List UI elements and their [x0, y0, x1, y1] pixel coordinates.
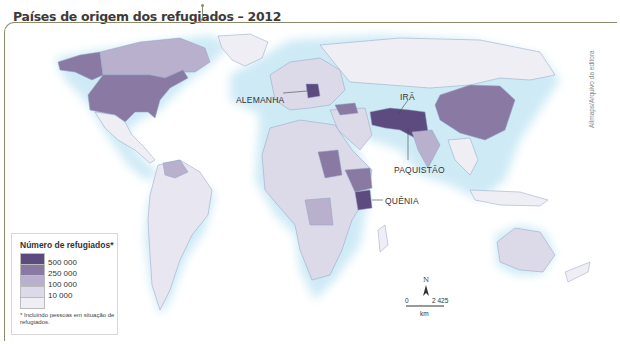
legend-value: 500 000: [48, 258, 77, 267]
scale-unit: km: [420, 310, 429, 317]
new-zealand: [565, 262, 590, 282]
legend: Número de refugiados* 500 000 250 000 10…: [11, 233, 118, 335]
kenya: [355, 190, 372, 210]
legend-value: 100 000: [48, 280, 77, 289]
scale-bar: N 0 2 425 km: [406, 276, 446, 322]
label-germany: ALEMANHA: [236, 95, 284, 105]
scale-end: 2 425: [432, 297, 448, 304]
legend-value: 250 000: [48, 269, 77, 278]
scale-start: 0: [405, 297, 409, 304]
label-kenya: QUÊNIA: [385, 196, 419, 206]
legend-title: Número de refugiados*: [20, 240, 114, 250]
germany: [306, 84, 320, 98]
map-credit: Allmaps/Arquivo da editora: [588, 50, 595, 128]
congo-region: [305, 198, 333, 225]
legend-note: * Incluindo pessoas em situação de refug…: [20, 312, 115, 326]
indonesia: [470, 190, 548, 206]
canada: [100, 38, 210, 78]
legend-value: 10 000: [48, 291, 72, 300]
south-america: [148, 160, 212, 310]
label-iran: IRÃ: [400, 92, 415, 102]
legend-swatch-lowest: [20, 297, 45, 309]
label-pakistan: PAQUISTÃO: [394, 165, 445, 175]
madagascar: [378, 225, 388, 252]
